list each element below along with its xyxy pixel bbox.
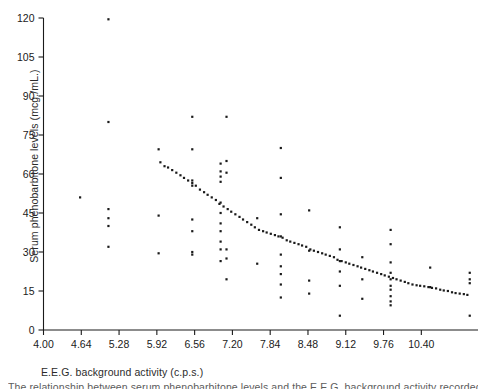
data-point: [341, 260, 343, 262]
data-point: [258, 229, 260, 231]
data-point: [390, 229, 392, 231]
data-point: [207, 194, 209, 196]
data-point: [280, 273, 282, 275]
x-tick-label: 7.84: [260, 338, 281, 350]
data-point: [225, 278, 227, 280]
data-point: [191, 254, 193, 256]
data-point: [280, 296, 282, 298]
data-point: [191, 182, 193, 184]
x-tick-label: 4.64: [71, 338, 92, 350]
data-point: [280, 265, 282, 267]
data-point: [364, 268, 366, 270]
x-tick-label: 9.12: [336, 338, 357, 350]
data-point: [435, 287, 437, 289]
data-point: [107, 18, 109, 20]
data-point: [305, 246, 307, 248]
data-point: [308, 209, 310, 211]
data-point: [215, 199, 217, 201]
data-point: [333, 256, 335, 258]
data-point: [404, 281, 406, 283]
data-point: [280, 147, 282, 149]
data-point: [427, 286, 429, 288]
data-point: [107, 208, 109, 210]
data-point: [225, 116, 227, 118]
data-point: [222, 205, 224, 207]
data-point: [376, 272, 378, 274]
data-point: [191, 179, 193, 181]
data-point: [469, 278, 471, 280]
data-point: [384, 274, 386, 276]
data-point: [280, 254, 282, 256]
data-point: [280, 283, 282, 285]
data-point: [407, 282, 409, 284]
data-point: [220, 181, 222, 183]
data-point: [158, 148, 160, 150]
data-point: [419, 285, 421, 287]
data-point: [308, 280, 310, 282]
data-point: [345, 261, 347, 263]
data-point: [309, 248, 311, 250]
data-point: [313, 250, 315, 252]
x-tick-label: 9.76: [373, 338, 394, 350]
data-point: [380, 273, 382, 275]
data-point: [220, 248, 222, 250]
data-point: [280, 177, 282, 179]
data-point: [390, 304, 392, 306]
data-point: [356, 265, 358, 267]
data-point: [256, 263, 258, 265]
data-point: [390, 285, 392, 287]
data-point: [395, 278, 397, 280]
data-point: [254, 226, 256, 228]
data-point: [191, 218, 193, 220]
data-point: [107, 225, 109, 227]
data-point: [79, 196, 81, 198]
data-point: [443, 289, 445, 291]
data-point: [469, 272, 471, 274]
data-point: [308, 293, 310, 295]
data-point: [227, 208, 229, 210]
data-point: [429, 267, 431, 269]
data-point: [191, 148, 193, 150]
data-point: [270, 233, 272, 235]
data-point: [220, 241, 222, 243]
data-point: [191, 116, 193, 118]
data-point: [463, 293, 465, 295]
data-point: [286, 239, 288, 241]
data-point: [171, 169, 173, 171]
data-point: [266, 231, 268, 233]
data-point: [158, 215, 160, 217]
data-point: [159, 161, 161, 163]
data-point: [317, 251, 319, 253]
data-point: [447, 290, 449, 292]
data-point: [167, 166, 169, 168]
data-point: [301, 244, 303, 246]
data-point: [220, 222, 222, 224]
data-point: [191, 185, 193, 187]
data-point: [191, 230, 193, 232]
data-point: [225, 160, 227, 162]
data-point: [230, 211, 232, 213]
data-point: [256, 217, 258, 219]
x-axis-title: E.E.G. background activity (c.p.s.): [41, 366, 203, 378]
data-point: [361, 256, 363, 258]
data-point: [339, 248, 341, 250]
x-tick-label: 10.40: [408, 338, 434, 350]
data-point: [451, 291, 453, 293]
plot-canvas: 01530456075901051204.004.645.285.926.567…: [0, 0, 481, 389]
data-point: [325, 254, 327, 256]
data-point: [280, 213, 282, 215]
data-point: [195, 185, 197, 187]
x-tick-label: 5.28: [109, 338, 130, 350]
data-point: [431, 287, 433, 289]
data-point: [390, 261, 392, 263]
data-point: [321, 252, 323, 254]
data-point: [242, 218, 244, 220]
scatter-figure: 01530456075901051204.004.645.285.926.567…: [0, 0, 481, 389]
figure-caption: The relationship between serum phenobarb…: [8, 381, 478, 389]
data-point: [281, 237, 283, 239]
data-point: [107, 121, 109, 123]
x-tick-label: 4.00: [33, 338, 54, 350]
data-point: [423, 285, 425, 287]
data-point: [220, 163, 222, 165]
data-point: [411, 283, 413, 285]
